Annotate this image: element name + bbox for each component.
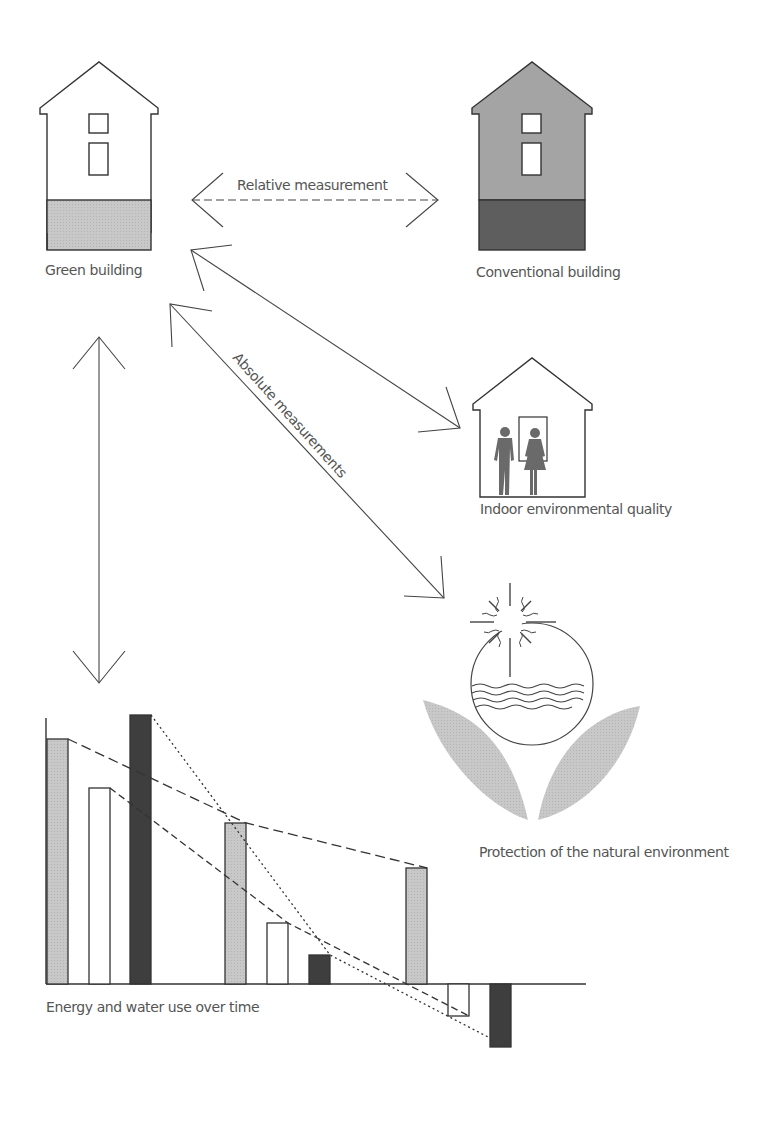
green-building-house-icon — [40, 62, 158, 250]
absolute-arrow-indoor — [191, 245, 460, 432]
relative-measurement-label: Relative measurement — [237, 177, 388, 193]
natural-environment-label: Protection of the natural environment — [479, 844, 729, 860]
bar-dark-period-3 — [490, 984, 511, 1047]
vertical-double-arrow — [73, 337, 125, 683]
absolute-measurements-label: Absolute measurements — [230, 349, 350, 480]
trend-green — [68, 739, 427, 868]
woman-figure-icon — [524, 428, 546, 495]
green-building-measurement-diagram: Green building Conventional building Rel… — [0, 0, 778, 1124]
trend-dark — [151, 715, 490, 1038]
bar-dark-period-2 — [309, 955, 330, 984]
conventional-building-house-icon — [472, 62, 592, 250]
man-figure-icon — [494, 427, 514, 495]
energy-water-label: Energy and water use over time — [46, 999, 259, 1015]
indoor-people-house-icon — [473, 358, 592, 497]
conventional-building-label: Conventional building — [476, 264, 620, 280]
bar-green-period-3 — [406, 868, 427, 984]
bar-white-period-3 — [448, 984, 469, 1016]
bar-white-period-2 — [267, 923, 288, 984]
bar-green-period-2 — [225, 823, 246, 984]
green-building-label: Green building — [45, 262, 142, 278]
sun-water-flower-icon — [423, 583, 640, 820]
bar-green-period-1 — [47, 739, 68, 984]
absolute-arrow-environment — [170, 304, 444, 598]
bar-dark-period-1 — [130, 715, 151, 984]
bar-white-period-1 — [89, 788, 110, 984]
indoor-quality-label: Indoor environmental quality — [480, 501, 672, 517]
